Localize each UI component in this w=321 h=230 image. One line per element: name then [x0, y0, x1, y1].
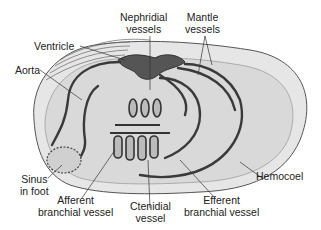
label-line: vessels	[120, 23, 167, 35]
label-hemocoel: Hemocoel	[256, 170, 303, 182]
sinus-in-foot	[47, 147, 81, 173]
label-line: Afferent	[38, 194, 113, 206]
label-ctenidial-vessel: Ctenidial vessel	[130, 200, 171, 224]
label-line: vessel	[130, 212, 171, 224]
label-aorta: Aorta	[15, 64, 40, 76]
label-line: Sinus	[20, 173, 49, 185]
label-nephridial-vessels: Nephridial vessels	[120, 11, 167, 35]
label-line: branchial vessel	[184, 206, 259, 218]
label-line: Efferent	[184, 194, 259, 206]
label-mantle-vessels: Mantle vessels	[185, 11, 220, 35]
label-line: Ctenidial	[130, 200, 171, 212]
label-line: Mantle	[185, 11, 220, 23]
label-ventricle: Ventricle	[34, 40, 74, 52]
label-line: vessels	[185, 23, 220, 35]
hemocoel-inner	[45, 58, 293, 184]
label-afferent-branchial-vessel: Afferent branchial vessel	[38, 194, 113, 218]
label-line: branchial vessel	[38, 206, 113, 218]
label-line: Nephridial	[120, 11, 167, 23]
label-efferent-branchial-vessel: Efferent branchial vessel	[184, 194, 259, 218]
